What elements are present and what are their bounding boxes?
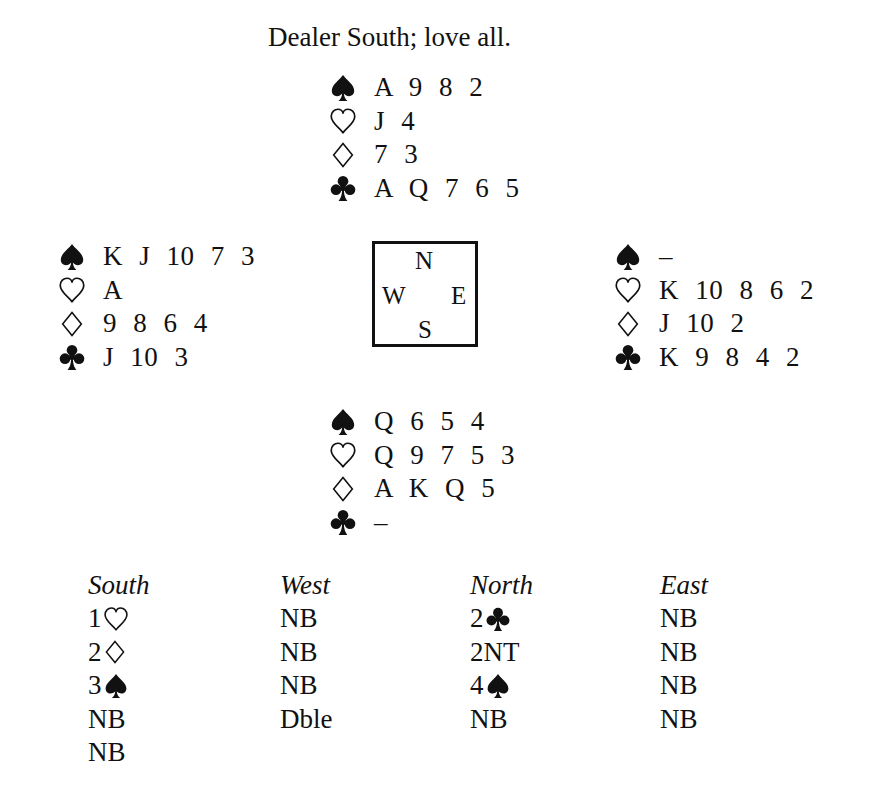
bidding-header-north: North xyxy=(470,568,533,602)
bid: 4 xyxy=(470,669,533,703)
diamond-icon xyxy=(55,307,89,341)
heart-icon xyxy=(55,274,89,308)
bid: 3 xyxy=(88,669,150,703)
bidding-column-south: South 1 2 3 NB NB xyxy=(88,568,150,770)
bidding-header-south: South xyxy=(88,568,150,602)
diamond-icon xyxy=(611,307,645,341)
heart-icon xyxy=(611,274,645,308)
deal-title: Dealer South; love all. xyxy=(268,20,511,54)
bid: 2 xyxy=(470,602,533,636)
club-icon xyxy=(326,172,360,206)
west-clubs-cards: J 10 3 xyxy=(103,341,189,375)
heart-icon xyxy=(326,439,360,473)
east-hearts-cards: K 10 8 6 2 xyxy=(659,274,814,308)
north-spades-cards: A 9 8 2 xyxy=(374,71,483,105)
bidding-column-west: West NB NB NB Dble xyxy=(280,568,332,736)
west-hearts-cards: A xyxy=(103,274,123,308)
bid: NB xyxy=(470,703,533,737)
club-icon xyxy=(611,341,645,375)
bid: NB xyxy=(660,602,708,636)
bid: Dble xyxy=(280,703,332,737)
diamond-icon xyxy=(326,472,360,506)
compass-north: N xyxy=(415,247,433,275)
east-clubs-cards: K 9 8 4 2 xyxy=(659,341,800,375)
north-hearts-cards: J 4 xyxy=(374,105,415,139)
bid: NB xyxy=(660,669,708,703)
bid: 1 xyxy=(88,602,150,636)
south-diamonds-cards: A K Q 5 xyxy=(374,472,495,506)
club-icon xyxy=(55,341,89,375)
compass-box: N W E S xyxy=(372,241,478,347)
north-clubs-cards: A Q 7 6 5 xyxy=(374,172,520,206)
bid: NB xyxy=(88,736,150,770)
west-spades-cards: K J 10 7 3 xyxy=(103,240,255,274)
spade-icon xyxy=(485,673,511,699)
bid: NB xyxy=(660,636,708,670)
south-clubs-cards: – xyxy=(374,506,388,540)
spade-icon xyxy=(326,405,360,439)
east-spades-cards: – xyxy=(659,240,673,274)
diamond-icon xyxy=(103,640,127,664)
compass-south: S xyxy=(418,316,432,344)
compass-east: E xyxy=(451,282,466,310)
bidding-column-east: East NB NB NB NB xyxy=(660,568,708,736)
spade-icon xyxy=(326,71,360,105)
spade-icon xyxy=(611,240,645,274)
spade-icon xyxy=(55,240,89,274)
club-icon xyxy=(326,506,360,540)
west-diamonds-cards: 9 8 6 4 xyxy=(103,307,208,341)
bid: NB xyxy=(280,602,332,636)
bid: NB xyxy=(280,636,332,670)
heart-icon xyxy=(103,606,129,632)
south-hearts-cards: Q 9 7 5 3 xyxy=(374,439,515,473)
north-diamonds-cards: 7 3 xyxy=(374,138,418,172)
club-icon xyxy=(485,606,511,632)
bid: NB xyxy=(280,669,332,703)
spade-icon xyxy=(103,673,129,699)
bidding-header-west: West xyxy=(280,568,332,602)
compass-west: W xyxy=(382,282,406,310)
diamond-icon xyxy=(326,138,360,172)
east-diamonds-cards: J 10 2 xyxy=(659,307,745,341)
bid: 2 xyxy=(88,636,150,670)
bidding-column-north: North 2 2NT 4 NB xyxy=(470,568,533,736)
bid: NB xyxy=(660,703,708,737)
bidding-header-east: East xyxy=(660,568,708,602)
heart-icon xyxy=(326,105,360,139)
bid: 2NT xyxy=(470,636,533,670)
bid: NB xyxy=(88,703,150,737)
south-spades-cards: Q 6 5 4 xyxy=(374,405,485,439)
